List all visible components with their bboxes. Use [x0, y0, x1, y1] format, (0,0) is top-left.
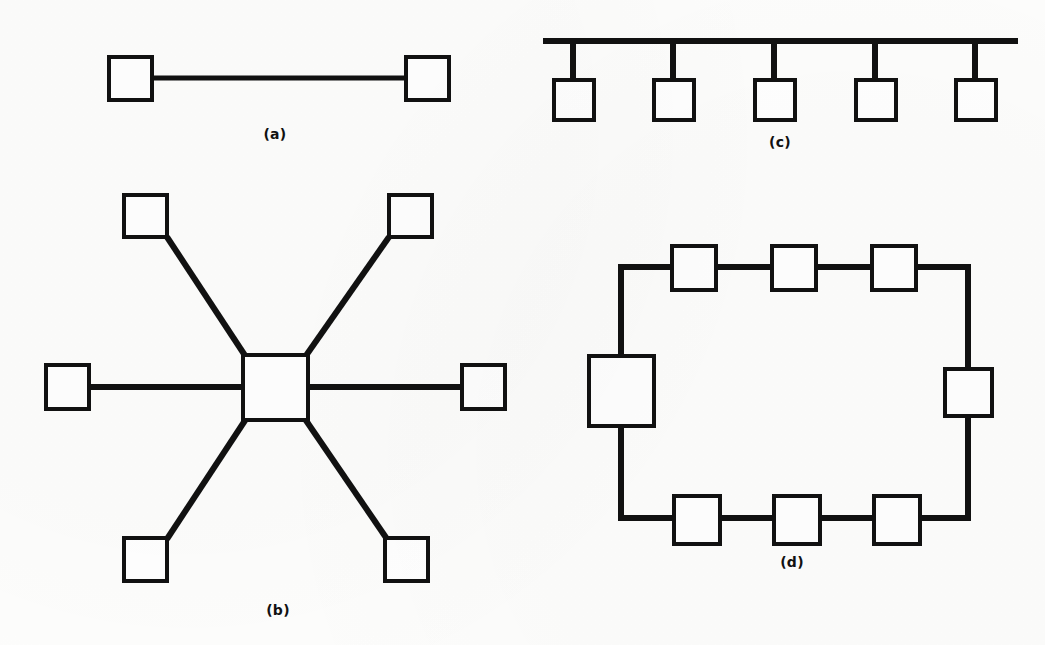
node-bus-5	[956, 80, 996, 120]
node-bus-4	[856, 80, 896, 120]
panel-label-d: (d)	[780, 554, 804, 570]
panel-label-c: (c)	[769, 134, 791, 150]
node-left	[589, 356, 654, 426]
spoke-upper-right	[305, 237, 389, 357]
spoke-lower-right	[305, 419, 387, 539]
panel-d-graphic	[520, 175, 1045, 645]
spoke-upper-left	[167, 237, 246, 357]
panel-label-b: (b)	[266, 602, 290, 618]
node-right	[406, 57, 449, 100]
node-bus-3	[755, 80, 795, 120]
node-upper-right	[389, 195, 432, 237]
node-lower-left	[124, 538, 167, 581]
node-bottom-3	[874, 496, 920, 544]
panel-ring: (d)	[520, 175, 1045, 645]
node-top-3	[872, 246, 916, 290]
node-left	[109, 57, 152, 100]
hub-node	[243, 355, 308, 420]
node-top-1	[672, 246, 716, 290]
node-right	[945, 369, 992, 416]
node-left	[46, 365, 89, 409]
panel-bus: (c)	[520, 0, 1045, 175]
node-lower-right	[385, 538, 428, 581]
ring-loop	[621, 267, 968, 518]
panel-star: (b)	[0, 165, 520, 645]
panel-label-a: (a)	[263, 126, 286, 142]
network-topology-figure: (a) (c)	[0, 0, 1045, 645]
node-top-2	[772, 246, 816, 290]
node-bus-2	[654, 80, 694, 120]
node-bottom-2	[774, 496, 820, 544]
panel-b-graphic	[0, 165, 520, 645]
panel-a-graphic	[0, 0, 520, 165]
node-bottom-1	[674, 496, 720, 544]
panel-point-to-point: (a)	[0, 0, 520, 165]
spoke-lower-left	[167, 419, 246, 539]
node-upper-left	[124, 195, 167, 237]
node-bus-1	[554, 80, 594, 120]
node-right	[462, 365, 505, 409]
